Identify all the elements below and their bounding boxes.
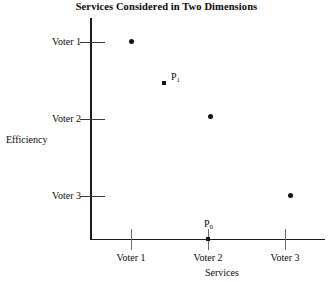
- x-axis-tick-3: [285, 229, 286, 250]
- x-axis-title: Services: [205, 267, 239, 278]
- point-label-p1: P1: [171, 71, 180, 82]
- point-label-p0: P0: [204, 218, 213, 229]
- y-axis-line: [90, 18, 92, 240]
- point-label-p1-subscript: 1: [177, 76, 181, 84]
- scatter-plot-figure: Services Considered in Two Dimensions Vo…: [0, 0, 333, 282]
- y-axis-tick-3: [80, 196, 105, 197]
- point-label-p0-subscript: 0: [210, 223, 214, 231]
- x-axis-label-3: Voter 3: [250, 252, 320, 263]
- x-axis-tick-1: [131, 229, 132, 250]
- point-label-p1-text: P: [171, 71, 177, 82]
- x-axis-label-2: Voter 2: [173, 252, 243, 263]
- x-axis-label-1: Voter 1: [96, 252, 166, 263]
- y-axis-title: Efficiency: [6, 134, 47, 145]
- data-point-p1: [162, 81, 167, 86]
- point-label-p0-text: P: [204, 218, 210, 229]
- y-axis-label-1: Voter 1: [52, 36, 81, 47]
- chart-title: Services Considered in Two Dimensions: [0, 1, 333, 12]
- data-point: [208, 114, 213, 119]
- data-point: [129, 39, 134, 44]
- y-axis-tick-2: [80, 119, 105, 120]
- y-axis-label-3: Voter 3: [52, 190, 81, 201]
- data-point-p0: [206, 237, 211, 242]
- y-axis-label-2: Voter 2: [52, 113, 81, 124]
- data-point: [288, 193, 293, 198]
- y-axis-tick-1: [80, 42, 105, 43]
